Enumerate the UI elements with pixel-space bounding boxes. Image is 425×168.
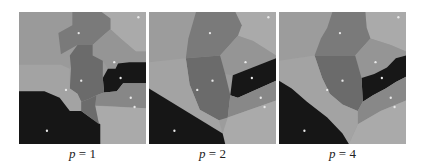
label-value: 2 <box>219 146 226 161</box>
voronoi-diagram-p1 <box>19 12 146 144</box>
voronoi-panel-p4 <box>279 12 406 144</box>
voronoi-diagram-p2 <box>149 12 276 144</box>
voronoi-panel-p1 <box>19 12 146 144</box>
voronoi-diagram-p4 <box>279 12 406 144</box>
voronoi-panel-p2 <box>149 12 276 144</box>
label-equals: = <box>336 146 350 161</box>
label-value: 1 <box>89 146 96 161</box>
label-value: 4 <box>349 146 356 161</box>
panel-label-p1: p = 1 <box>19 146 146 162</box>
label-equals: = <box>76 146 90 161</box>
panel-label-p4: p = 4 <box>279 146 406 162</box>
label-equals: = <box>206 146 220 161</box>
panel-label-p2: p = 2 <box>149 146 276 162</box>
